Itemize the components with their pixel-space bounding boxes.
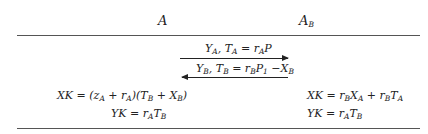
- party-ab-base: A: [299, 13, 308, 28]
- bottom-rule: [17, 128, 420, 129]
- message-1-label: YA, TA = rAP: [205, 42, 272, 56]
- right-yk-equation: YK = rATB: [307, 107, 362, 121]
- arrow-right-icon: [180, 58, 288, 59]
- arrow-left-icon: [182, 77, 288, 78]
- message-2-label: YB, TB = rBP1 −XB: [196, 62, 294, 76]
- left-xk-equation: XK = (zA + rA)(TB + XB): [57, 89, 187, 103]
- party-ab-label: AB: [299, 13, 314, 29]
- left-yk-equation: YK = rATB: [111, 107, 166, 121]
- party-a-label: A: [158, 13, 167, 28]
- party-ab-sub: B: [308, 20, 314, 29]
- top-rule: [17, 35, 420, 36]
- right-xk-equation: XK = rBXA + rBTA: [307, 89, 403, 103]
